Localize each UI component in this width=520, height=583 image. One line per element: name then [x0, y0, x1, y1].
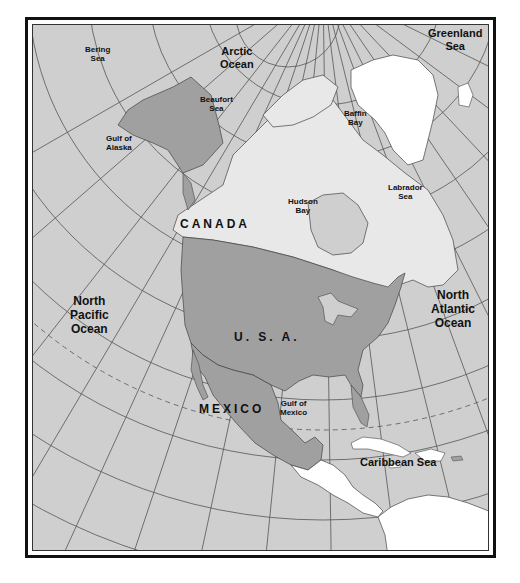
map-graphic — [33, 25, 489, 551]
south-america — [378, 495, 489, 551]
cuba — [351, 437, 411, 457]
label-greenland-sea: GreenlandSea — [428, 27, 482, 52]
label-beaufort-sea: BeaufortSea — [200, 95, 233, 113]
map-frame: BeringSea ArcticOcean GreenlandSea Beauf… — [25, 17, 496, 558]
label-arctic-ocean: ArcticOcean — [220, 45, 254, 70]
label-gulf-of-alaska: Gulf ofAlaska — [106, 134, 132, 152]
puerto-rico — [451, 456, 463, 461]
label-caribbean-sea: Caribbean Sea — [360, 456, 436, 469]
label-hudson-bay: HudsonBay — [288, 197, 318, 215]
label-gulf-of-mexico: Gulf ofMexico — [280, 399, 307, 417]
label-canada: CANADA — [180, 218, 250, 232]
label-mexico: MEXICO — [199, 403, 264, 417]
label-bering-sea: BeringSea — [85, 45, 110, 63]
label-labrador-sea: LabradorSea — [388, 183, 423, 201]
iceland — [458, 83, 473, 107]
label-north-pacific-ocean: NorthPacificOcean — [70, 295, 109, 336]
label-usa: U. S. A. — [234, 331, 300, 345]
map-canvas: BeringSea ArcticOcean GreenlandSea Beauf… — [32, 24, 489, 551]
label-baffin-bay: BaffinBay — [344, 109, 367, 127]
label-north-atlantic-ocean: NorthAtlanticOcean — [431, 289, 475, 330]
alaska-landmass — [118, 77, 223, 173]
